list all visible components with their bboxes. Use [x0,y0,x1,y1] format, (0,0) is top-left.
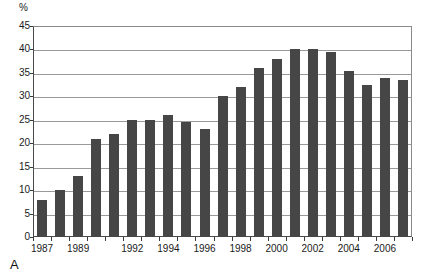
y-axis-tick-labels: 051015202530354045 [3,26,30,237]
bar [380,78,390,237]
bar [362,85,372,237]
bar [200,129,210,237]
bar [254,68,264,237]
x-axis-tick-mark [286,237,287,241]
bar [127,120,137,237]
x-axis-tick-mark [159,237,160,241]
bar [272,59,282,237]
x-axis-tick-mark [69,237,70,241]
x-axis-tick-mark [268,237,269,241]
x-axis-tick-mark [358,237,359,241]
x-axis-tick-mark [340,237,341,241]
x-axis-tick-label: 2006 [374,243,396,255]
bar [218,96,228,237]
y-axis-tick-label: 10 [6,185,30,195]
bar [73,176,83,237]
x-axis-tick-labels: 1987198919921994199619982000200220042006 [33,243,412,259]
x-axis-tick-label: 2002 [302,243,324,255]
x-axis-tick-mark [177,237,178,241]
bar-chart-figure: % 051015202530354045 1987198919921994199… [0,0,426,278]
bar [398,80,408,237]
bar [55,190,65,237]
bar [344,71,354,238]
x-axis-tick-label: 1998 [229,243,251,255]
bars-group [33,26,412,237]
x-axis-tick-mark [33,237,34,241]
x-axis-tick-mark [394,237,395,241]
bar [37,200,47,238]
x-axis-tick-label: 1989 [67,243,89,255]
bar [109,134,119,237]
y-axis-tick-label: 5 [6,209,30,219]
x-axis-tick-marks [33,237,412,242]
bar [163,115,173,237]
bar [326,52,336,237]
x-axis-tick-label: 1994 [157,243,179,255]
x-axis-tick-label: 1987 [31,243,53,255]
y-axis-tick-label: 30 [6,91,30,101]
bar [236,87,246,237]
bar [145,120,155,237]
y-axis-tick-label: 20 [6,138,30,148]
bar [91,139,101,238]
x-axis-tick-label: 1992 [121,243,143,255]
y-axis-tick-label: 40 [6,44,30,54]
x-axis-tick-mark [195,237,196,241]
x-axis-tick-mark [105,237,106,241]
x-axis-tick-mark [232,237,233,241]
x-axis-tick-mark [123,237,124,241]
bar [290,49,300,237]
bar [181,122,191,237]
x-axis-tick-mark [141,237,142,241]
y-axis-tick-label: 15 [6,162,30,172]
x-axis-tick-label: 1996 [193,243,215,255]
x-axis-tick-label: 2004 [338,243,360,255]
x-axis-tick-mark [412,237,413,241]
y-axis-tick-label: 0 [6,232,30,242]
x-axis-tick-label: 2000 [265,243,287,255]
x-axis-tick-mark [304,237,305,241]
y-axis-tick-label: 25 [6,115,30,125]
bar [308,49,318,237]
y-axis-unit-label: % [19,2,28,13]
x-axis-tick-mark [87,237,88,241]
figure-letter-label: A [10,258,19,272]
x-axis-tick-mark [250,237,251,241]
x-axis-tick-mark [51,237,52,241]
y-axis-tick-label: 35 [6,68,30,78]
x-axis-tick-mark [322,237,323,241]
x-axis-tick-mark [214,237,215,241]
x-axis-tick-mark [376,237,377,241]
y-axis-tick-label: 45 [6,21,30,31]
